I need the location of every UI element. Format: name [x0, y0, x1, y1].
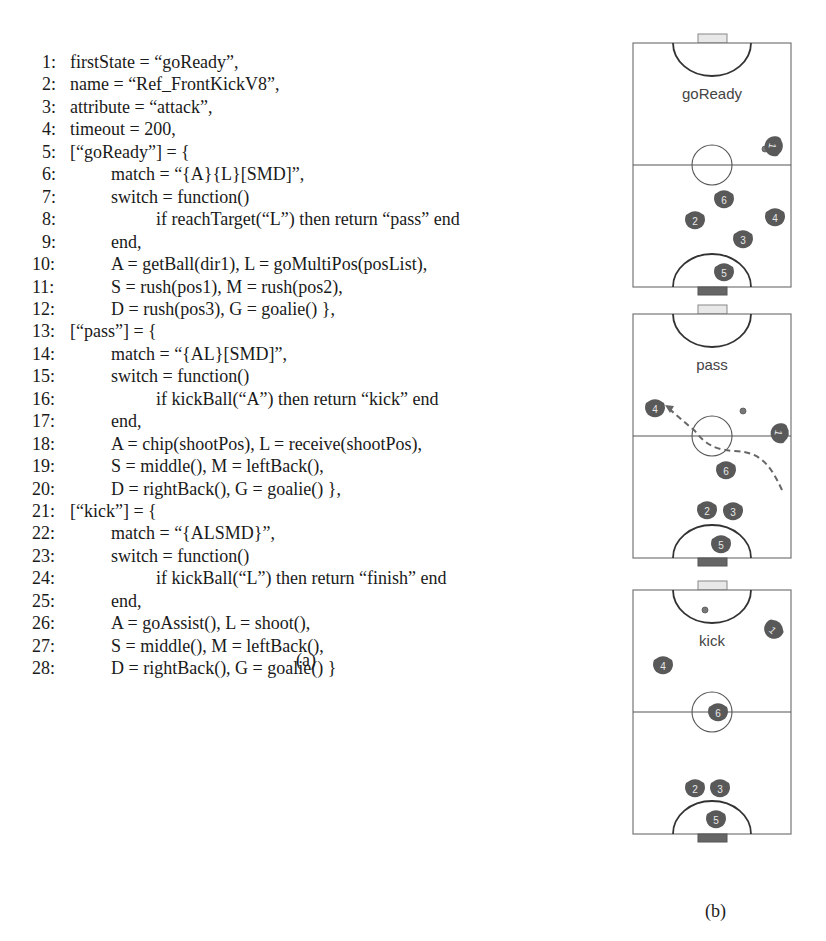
robot-number: 6 [721, 195, 727, 206]
ball [702, 607, 708, 613]
robot-number: 4 [660, 661, 666, 672]
robot-number: 5 [718, 540, 724, 551]
state-label: goReady [682, 85, 743, 102]
field-pass: pass416235 [633, 305, 791, 566]
bottom-goal [698, 558, 727, 566]
robot-number: 5 [713, 815, 719, 826]
robot-number: 3 [717, 784, 723, 795]
caption-b: (b) [705, 901, 726, 922]
robot-number: 2 [692, 784, 698, 795]
robot-number: 3 [740, 235, 746, 246]
robot-number: 2 [704, 506, 710, 517]
top-goal [698, 34, 727, 43]
robot-number: 2 [692, 216, 698, 227]
top-goal [698, 305, 727, 314]
field-diagrams: goReady162435pass416235kick146235 [0, 0, 826, 941]
state-label: pass [696, 356, 728, 373]
top-goal [698, 581, 727, 590]
robot-number: 4 [652, 404, 658, 415]
bottom-goal [698, 834, 727, 842]
robot-number: 5 [721, 268, 727, 279]
state-label: kick [699, 632, 725, 649]
robot-number: 4 [772, 213, 778, 224]
field-goReady: goReady162435 [633, 34, 791, 295]
robot-number: 6 [723, 466, 729, 477]
robot-number: 6 [715, 708, 721, 719]
ball [740, 408, 746, 414]
field-kick: kick146235 [633, 581, 791, 842]
bottom-goal [698, 287, 727, 295]
robot-number: 3 [730, 507, 736, 518]
